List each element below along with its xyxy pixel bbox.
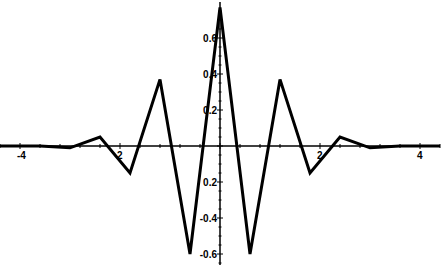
x-tick-label: 4 [417,150,423,161]
line-chart: -42240.60.40.20.2-0.4-0.6 [0,0,441,267]
axes [2,2,439,265]
y-tick-label: 0.2 [203,177,217,188]
x-tick-label: -4 [17,150,26,161]
y-tick-label: -0.6 [200,249,218,260]
y-tick-label: 0.2 [203,105,217,116]
y-tick-label: -0.4 [200,213,218,224]
